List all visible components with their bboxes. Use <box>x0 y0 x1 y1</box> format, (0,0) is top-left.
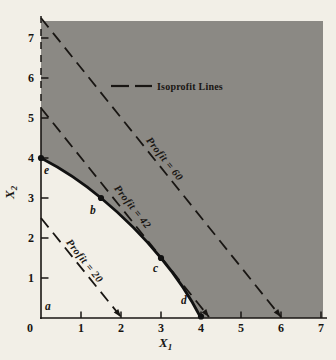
point-label-b: b <box>90 204 96 216</box>
point-label-e: e <box>44 164 49 176</box>
y-tick-label: 2 <box>28 231 34 245</box>
corner-point-b <box>98 195 104 201</box>
x-tick-label: 4 <box>198 321 204 335</box>
point-label-a: a <box>45 300 51 312</box>
y-tick-label: 5 <box>28 111 34 125</box>
x-tick-label: 0 <box>27 321 33 335</box>
point-label-c: c <box>153 262 158 274</box>
x-tick-label: 3 <box>158 321 164 335</box>
x-tick-label: 2 <box>118 321 124 335</box>
point-label-d: d <box>181 294 187 306</box>
x-tick-label: 1 <box>78 321 84 335</box>
x-axis-title: X1 <box>158 335 172 352</box>
lp-graph: 012345671234567Profit = 20Profit = 42Pro… <box>0 0 336 360</box>
y-tick-label: 1 <box>28 271 34 285</box>
x-tick-label: 6 <box>278 321 284 335</box>
corner-point-d <box>198 313 204 319</box>
y-tick-label: 7 <box>28 31 34 45</box>
x-tick-label: 7 <box>318 321 324 335</box>
x-tick-label: 5 <box>238 321 244 335</box>
y-tick-label: 3 <box>28 191 34 205</box>
y-tick-label: 4 <box>28 151 34 165</box>
y-tick-label: 6 <box>28 71 34 85</box>
x-axis-title-sub: 1 <box>168 342 173 352</box>
x-axis-title-base: X <box>158 335 168 350</box>
y-axis-title-base: X <box>2 190 17 200</box>
corner-point-c <box>158 255 164 261</box>
y-axis-title-sub: 2 <box>9 185 19 191</box>
y-axis-title: X2 <box>2 185 19 200</box>
legend-label: Isoprofit Lines <box>157 81 223 92</box>
corner-point-e <box>38 155 44 161</box>
figure: 012345671234567Profit = 20Profit = 42Pro… <box>0 0 336 360</box>
